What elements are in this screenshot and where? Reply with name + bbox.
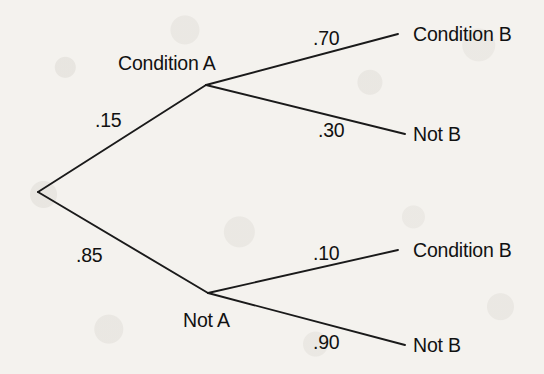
node-label-condition-a: Condition A (118, 52, 216, 75)
leaf-label-condition-a-condition-b: Condition B (413, 23, 512, 46)
probability-label-condition-a-not-b: .30 (318, 119, 345, 142)
branch-line-condition-a-to-not-b (206, 85, 405, 134)
probability-label-not-a-not-b: .90 (313, 331, 340, 354)
branch-line-root-to-condition-a (38, 85, 206, 192)
leaf-label-condition-a-not-b: Not B (413, 123, 461, 146)
probability-tree-figure: Condition A Not A .15 .85 Condition B No… (0, 0, 544, 374)
tree-branch-lines (0, 0, 544, 374)
probability-label-condition-a: .15 (95, 109, 122, 132)
branch-line-not-a-to-condition-b (208, 250, 398, 293)
probability-label-condition-a-condition-b: .70 (313, 27, 340, 50)
branch-line-root-to-not-a (38, 192, 208, 293)
branch-line-condition-a-to-condition-b (206, 34, 398, 85)
leaf-label-not-a-not-b: Not B (413, 334, 461, 357)
leaf-label-not-a-condition-b: Condition B (413, 239, 512, 262)
node-label-not-a: Not A (183, 309, 230, 332)
probability-label-not-a: .85 (76, 244, 103, 267)
branch-line-not-a-to-not-b (208, 293, 405, 345)
probability-label-not-a-condition-b: .10 (313, 242, 340, 265)
